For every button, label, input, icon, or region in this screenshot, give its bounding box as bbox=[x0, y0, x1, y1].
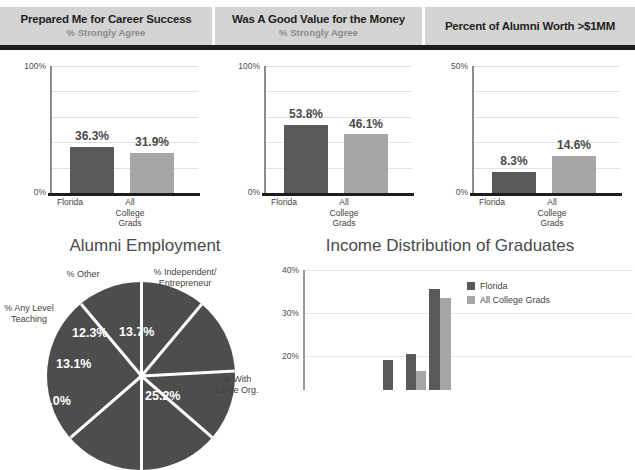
gridline bbox=[472, 91, 620, 92]
gridline bbox=[303, 270, 633, 271]
x-category-all-college-grads: All College Grads bbox=[522, 197, 582, 229]
pie-label-line1: % Any Level bbox=[0, 303, 60, 314]
banner-subtitle: % Strongly Agree bbox=[67, 27, 146, 39]
x-category-line1: All bbox=[100, 197, 160, 208]
gridline bbox=[472, 66, 620, 67]
bar-florida bbox=[284, 125, 328, 193]
bar-value-florida: 8.3% bbox=[484, 154, 544, 168]
bar-chart-career-success: 100% 0% 36.3% 31.9% Florida All College … bbox=[8, 58, 208, 208]
gridline bbox=[50, 66, 198, 67]
bar-value-all-college-grads: 31.9% bbox=[122, 135, 182, 149]
banner-panel-career-success: Prepared Me for Career Success % Strongl… bbox=[0, 7, 212, 45]
bar-value-florida: 53.8% bbox=[276, 107, 336, 121]
x-category-florida: Florida bbox=[254, 197, 314, 208]
x-category-all-college-grads: All College Grads bbox=[314, 197, 374, 229]
bar-all-college-grads bbox=[344, 134, 388, 193]
gridline bbox=[50, 91, 198, 92]
bar-all-college-grads bbox=[552, 156, 596, 193]
gridline bbox=[50, 117, 198, 118]
x-category-line2: College bbox=[314, 208, 374, 219]
bar-all-college-grads bbox=[130, 153, 174, 194]
pie-label-any-level-teaching: % Any Level Teaching bbox=[0, 303, 60, 325]
pie-label-independent-entrepreneur: % Independent/ Entrepreneur bbox=[140, 267, 230, 289]
x-category-line3: Grads bbox=[314, 218, 374, 229]
y-axis-label-bottom: 0% bbox=[428, 187, 468, 197]
pie-slice-value-lower: 11.0% bbox=[36, 394, 71, 408]
y-axis-label-top: 100% bbox=[6, 61, 46, 71]
x-category-florida: Florida bbox=[40, 197, 100, 208]
x-category-all-college-grads: All College Grads bbox=[100, 197, 160, 229]
pie-slice-value-teaching: 13.1% bbox=[56, 357, 91, 371]
income-chart-title: Income Distribution of Graduates bbox=[285, 236, 615, 256]
pie-label-line1: % Independent/ bbox=[140, 267, 230, 278]
banner-title: Was A Good Value for the Money bbox=[232, 13, 405, 26]
income-bar-all-college-grads bbox=[416, 371, 426, 390]
income-bar-florida bbox=[429, 289, 440, 390]
y-axis-label-bottom: 0% bbox=[6, 187, 46, 197]
bar-chart-worth-1mm: 50% 0% 8.3% 14.6% Florida All College Gr… bbox=[430, 58, 630, 208]
y-axis bbox=[472, 66, 474, 193]
pie-slice-value-large-org: 25.2% bbox=[145, 389, 180, 403]
bar-chart-good-value: 100% 0% 53.8% 46.1% Florida All College … bbox=[222, 58, 422, 208]
pie-label-line2: Entrepreneur bbox=[140, 278, 230, 289]
x-category-line3: Grads bbox=[100, 218, 160, 229]
x-axis bbox=[48, 193, 200, 196]
legend-label-all-college-grads: All College Grads bbox=[480, 295, 550, 305]
gridline bbox=[264, 66, 412, 67]
plot-area: 100% 0% 36.3% 31.9% bbox=[50, 66, 198, 193]
x-category-line1: All bbox=[314, 197, 374, 208]
x-category-line2: College bbox=[522, 208, 582, 219]
y-axis bbox=[303, 270, 305, 390]
pie-label-line2: Teaching bbox=[0, 314, 60, 325]
pie-label-other: % Other bbox=[48, 269, 118, 280]
kpi-banner: Prepared Me for Career Success % Strongl… bbox=[0, 7, 635, 45]
banner-panel-good-value: Was A Good Value for the Money % Strongl… bbox=[212, 7, 425, 45]
gridline bbox=[303, 313, 633, 314]
y-axis-label-top: 50% bbox=[428, 61, 468, 71]
plot-area: 100% 0% 53.8% 46.1% bbox=[264, 66, 412, 193]
banner-panel-worth-1mm: Percent of Alumni Worth >$1MM bbox=[425, 7, 635, 45]
legend-swatch-icon bbox=[467, 282, 475, 290]
gridline bbox=[303, 356, 633, 357]
x-category-florida: Florida bbox=[462, 197, 522, 208]
banner-subtitle: % Strongly Agree bbox=[279, 27, 358, 39]
legend-swatch-icon bbox=[467, 296, 475, 304]
pie-label-line2: Large Org. bbox=[206, 385, 268, 396]
pie-spoke bbox=[140, 303, 203, 377]
x-category-line3: Grads bbox=[522, 218, 582, 229]
banner-title: Percent of Alumni Worth >$1MM bbox=[445, 20, 615, 33]
gridline bbox=[472, 117, 620, 118]
y-axis-label-20: 20% bbox=[259, 351, 299, 361]
pie-spoke bbox=[140, 375, 213, 439]
pie-spoke bbox=[140, 376, 143, 470]
banner-title: Prepared Me for Career Success bbox=[20, 13, 191, 26]
pie-chart-title: Alumni Employment bbox=[0, 236, 290, 256]
bar-chart-income-distribution: Income Distribution of Graduates 40% 30%… bbox=[255, 232, 635, 386]
bar-florida bbox=[70, 147, 114, 193]
income-chart-legend: Florida All College Grads bbox=[467, 280, 550, 308]
pie-slice-value-independent: 13.7% bbox=[119, 325, 154, 339]
y-axis bbox=[50, 66, 52, 193]
bar-value-all-college-grads: 14.6% bbox=[544, 138, 604, 152]
gridline bbox=[264, 91, 412, 92]
bar-florida bbox=[492, 172, 536, 193]
bar-value-all-college-grads: 46.1% bbox=[336, 117, 396, 131]
y-axis bbox=[264, 66, 266, 193]
legend-label-florida: Florida bbox=[480, 281, 508, 291]
legend-item-all-college-grads: All College Grads bbox=[467, 294, 550, 306]
y-axis-label-40: 40% bbox=[259, 265, 299, 275]
x-category-line1: All bbox=[522, 197, 582, 208]
plot-area: 50% 0% 8.3% 14.6% bbox=[472, 66, 620, 193]
bar-value-florida: 36.3% bbox=[62, 129, 122, 143]
income-bar-all-college-grads bbox=[440, 298, 451, 390]
banner-divider-rule bbox=[0, 45, 635, 50]
y-axis-label-30: 30% bbox=[259, 308, 299, 318]
income-bar-florida bbox=[406, 354, 416, 390]
x-category-line2: College bbox=[100, 208, 160, 219]
x-axis bbox=[262, 193, 414, 196]
y-axis-label-top: 100% bbox=[220, 61, 260, 71]
income-bar-florida bbox=[383, 360, 393, 390]
legend-item-florida: Florida bbox=[467, 280, 550, 292]
pie-spoke bbox=[69, 375, 142, 439]
pie-slice-value-other: 12.3% bbox=[72, 326, 107, 340]
